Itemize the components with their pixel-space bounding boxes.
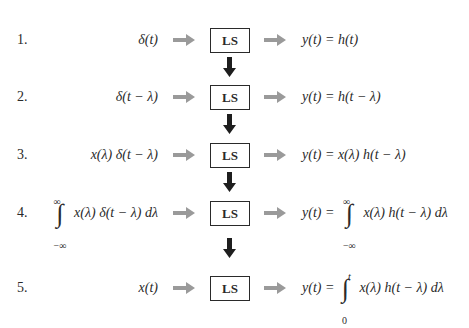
ls-block: LS [210,201,250,226]
output-arrow-icon [264,149,286,161]
output-expression: y(t) = ∞ ∫ −∞ x(λ) h(t − λ) dλ [302,198,448,229]
input-expression: δ(t − λ) [116,82,158,112]
input-arrow-icon [173,149,195,161]
row-2: 2. δ(t − λ) LS y(t) = h(t − λ) [0,82,469,112]
ls-block: LS [210,143,250,168]
integral-lower-limit: −∞ [343,231,356,261]
row-number: 4. [17,198,28,228]
integral-sign: t ∫ 0 [340,274,356,304]
integral-icon: ∫ [342,270,349,308]
integral-lower-limit: −∞ [54,231,67,261]
output-expression: y(t) = h(t) [302,25,358,55]
integrand: x(λ) h(t − λ) dλ [363,205,447,220]
row-number: 2. [17,82,28,112]
output-arrow-icon [264,91,286,103]
integral-sign: ∞ ∫ −∞ [55,199,71,229]
output-expression: y(t) = t ∫ 0 x(λ) h(t − λ) dλ [302,273,444,304]
input-expression: δ(t) [138,25,158,55]
row-number: 1. [17,25,28,55]
input-expression: x(λ) δ(t − λ) [91,140,158,170]
output-prefix: y(t) = [302,205,334,220]
input-arrow-icon [173,207,195,219]
output-arrow-icon [264,207,286,219]
output-expression: y(t) = x(λ) h(t − λ) [302,140,406,170]
ls-block: LS [210,85,250,110]
down-arrow-icon [223,238,236,258]
row-number: 3. [17,140,28,170]
row-1: 1. δ(t) LS y(t) = h(t) [0,25,469,55]
integral-icon: ∫ [346,195,353,233]
ls-block: LS [210,276,250,301]
down-arrow-icon [223,114,236,134]
integral-sign: ∞ ∫ −∞ [344,199,360,229]
input-arrow-icon [173,91,195,103]
down-arrow-icon [223,57,236,77]
row-5: 5. x(t) LS y(t) = t ∫ 0 x(λ) h(t − λ) dλ [0,273,469,303]
ls-block: LS [210,28,250,53]
output-arrow-icon [264,34,286,46]
down-arrow-icon [223,172,236,192]
input-arrow-icon [173,34,195,46]
input-expression: ∞ ∫ −∞ x(λ) δ(t − λ) dλ [55,198,158,229]
row-4: 4. ∞ ∫ −∞ x(λ) δ(t − λ) dλ LS y(t) = ∞ ∫… [0,198,469,228]
output-prefix: y(t) = [302,280,334,295]
output-expression: y(t) = h(t − λ) [302,82,381,112]
input-expression: x(t) [139,273,158,303]
integrand: x(λ) h(t − λ) dλ [359,280,443,295]
output-arrow-icon [264,282,286,294]
row-3: 3. x(λ) δ(t − λ) LS y(t) = x(λ) h(t − λ) [0,140,469,170]
row-number: 5. [17,273,28,303]
integral-lower-limit: 0 [342,306,347,328]
integrand: x(λ) δ(t − λ) dλ [74,205,158,220]
input-arrow-icon [173,282,195,294]
integral-icon: ∫ [57,195,64,233]
